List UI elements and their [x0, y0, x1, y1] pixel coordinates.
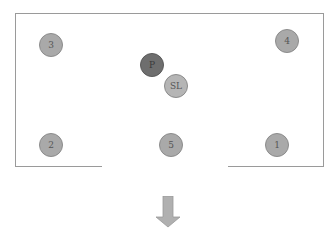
marker-3: 3	[39, 33, 63, 57]
wall-bottom-left	[15, 166, 102, 167]
marker-p: P	[140, 53, 164, 77]
marker-4: 4	[275, 29, 299, 53]
marker-5: 5	[159, 133, 183, 157]
marker-sl: SL	[164, 74, 188, 98]
wall-right	[323, 13, 324, 167]
marker-2: 2	[39, 133, 63, 157]
wall-bottom-right	[228, 166, 324, 167]
marker-1: 1	[265, 133, 289, 157]
arrow-down-icon	[155, 196, 181, 228]
wall-top	[15, 13, 324, 14]
wall-left	[15, 13, 16, 167]
